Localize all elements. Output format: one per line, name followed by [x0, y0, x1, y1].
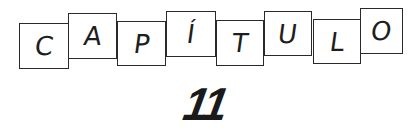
letter-c: C: [33, 31, 55, 61]
letter-box-a: A: [68, 13, 117, 59]
letter-a: A: [81, 21, 103, 51]
letter-box-c: C: [19, 23, 69, 69]
letter-p: P: [132, 29, 152, 59]
letter-box-i-accent: Í: [166, 11, 216, 57]
letter-box-u: U: [264, 11, 312, 56]
letter-t: T: [230, 28, 250, 58]
letter-o: O: [369, 16, 394, 46]
letter-box-p: P: [117, 21, 166, 66]
letter-l: L: [328, 27, 347, 57]
chapter-number: 11: [176, 81, 234, 127]
letter-box-l: L: [313, 19, 361, 64]
letter-box-t: T: [216, 20, 264, 66]
letter-box-o: O: [360, 8, 403, 54]
letter-u: U: [276, 19, 299, 49]
letter-i-accent: Í: [185, 19, 197, 49]
